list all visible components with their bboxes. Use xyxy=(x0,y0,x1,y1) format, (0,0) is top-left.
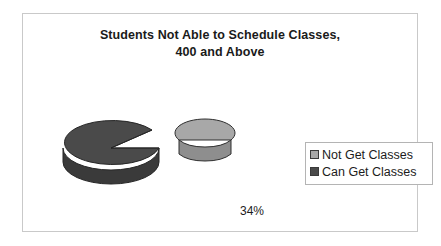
legend-item-not-get-classes: Not Get Classes xyxy=(310,146,428,163)
pie-label-not-get-classes: 34% xyxy=(240,204,264,218)
legend-label-not-get-classes: Not Get Classes xyxy=(322,148,413,162)
legend-item-can-get-classes: Can Get Classes xyxy=(310,163,428,180)
chart-title-line-1: Students Not Able to Schedule Classes, xyxy=(23,27,417,44)
legend-swatch-can-get-classes-icon xyxy=(310,167,319,176)
chart-title: Students Not Able to Schedule Classes, 4… xyxy=(23,27,417,61)
legend-swatch-not-get-classes-icon xyxy=(310,150,319,159)
pie-chart-svg xyxy=(53,96,253,206)
chart-legend: Not Get Classes Can Get Classes xyxy=(305,142,433,185)
chart-title-line-2: 400 and Above xyxy=(23,44,417,61)
pie-slice-can-get-classes-top xyxy=(65,121,159,165)
chart-frame: Students Not Able to Schedule Classes, 4… xyxy=(22,13,418,232)
pie-slice-not-get-classes-side xyxy=(179,140,231,161)
legend-label-can-get-classes: Can Get Classes xyxy=(322,165,416,179)
pie-slice-not-get-classes-top xyxy=(175,119,235,140)
pie-chart: 34% 66% xyxy=(53,96,253,206)
